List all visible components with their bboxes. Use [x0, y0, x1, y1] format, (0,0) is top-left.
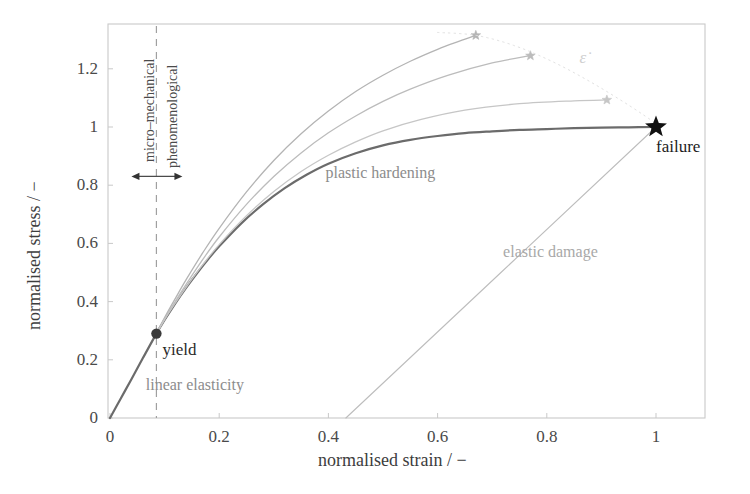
y-tick-label-6: 1.2 — [50, 59, 98, 79]
series-3-path — [156, 100, 606, 334]
y-axis-title: normalised stress / − — [24, 181, 45, 330]
y-tick-label-3: 0.6 — [50, 233, 98, 253]
region-arrow-head-left — [131, 173, 139, 180]
plot-frame — [108, 24, 705, 418]
marker-yield-dot-icon — [151, 328, 161, 338]
y-tick-label-1: 0.2 — [50, 350, 98, 370]
plot-canvas — [0, 0, 750, 494]
series-2-end-star-icon — [526, 51, 536, 60]
y-tick-label-5: 1 — [50, 117, 98, 137]
annotation-elastic-damage: elastic damage — [503, 243, 598, 261]
x-tick-label-3: 0.6 — [427, 427, 448, 447]
region-arrow-head-right — [174, 173, 182, 180]
data-series-group — [110, 30, 656, 418]
series-1-path — [156, 35, 475, 333]
stress-strain-figure: 00.20.40.60.811.2 00.20.40.60.81 normali… — [0, 0, 750, 494]
x-tick-label-0: 0 — [106, 427, 115, 447]
annotation-plastic-hardening: plastic hardening — [325, 164, 435, 182]
annotation-strain-rate: ε̇ — [580, 48, 587, 68]
y-tick-label-4: 0.8 — [50, 175, 98, 195]
x-tick-label-1: 0.2 — [209, 427, 230, 447]
region-label-micro-mechanical: micro–mechanical — [142, 59, 158, 162]
data-markers-group — [151, 116, 667, 339]
x-tick-label-2: 0.4 — [318, 427, 339, 447]
x-axis-title: normalised strain / − — [318, 450, 467, 471]
plot-frame-rect — [108, 24, 705, 418]
annotation-linear-elasticity: linear elasticity — [146, 376, 244, 394]
region-label-phenomenological: phenomenological — [165, 65, 181, 168]
y-tick-label-0: 0 — [50, 408, 98, 428]
series-3-end-star-icon — [602, 95, 612, 104]
annotation-yield: yield — [162, 340, 196, 360]
x-tick-label-5: 1 — [652, 427, 661, 447]
series-2-path — [156, 56, 530, 334]
y-tick-label-2: 0.4 — [50, 292, 98, 312]
x-tick-label-4: 0.8 — [536, 427, 557, 447]
annotation-failure: failure — [656, 137, 700, 157]
